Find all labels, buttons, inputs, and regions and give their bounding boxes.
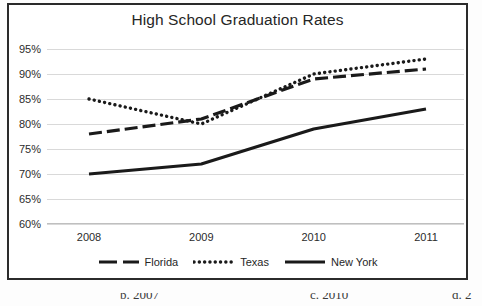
legend-item-texas[interactable]: Texas xyxy=(193,256,269,268)
legend-label: New York xyxy=(331,256,377,268)
y-axis-tick-label: 65% xyxy=(19,193,41,205)
answer-choice-d: d. 2 xyxy=(452,293,472,303)
plot-area: 60%65%70%75%80%85%90%95% 200820092010201… xyxy=(47,49,464,224)
y-axis-tick-label: 70% xyxy=(19,168,41,180)
y-axis-tick-label: 60% xyxy=(19,218,41,230)
y-axis-tick-label: 80% xyxy=(19,118,41,130)
chart-title: High School Graduation Rates xyxy=(9,11,466,29)
chart-container: High School Graduation Rates 60%65%70%75… xyxy=(7,3,468,280)
legend-item-new-york[interactable]: New York xyxy=(284,256,377,268)
legend-label: Texas xyxy=(240,256,269,268)
screenshot-root: High School Graduation Rates 60%65%70%75… xyxy=(0,0,482,306)
legend-swatch-dashed xyxy=(98,257,140,267)
y-axis-tick-label: 95% xyxy=(19,43,41,55)
gridline xyxy=(47,224,464,225)
x-axis-tick-label: 2009 xyxy=(189,231,213,243)
y-axis-tick-label: 75% xyxy=(19,143,41,155)
legend-swatch-solid xyxy=(284,257,326,267)
legend-label: Florida xyxy=(145,256,179,268)
x-axis-tick-label: 2011 xyxy=(414,231,438,243)
legend-item-florida[interactable]: Florida xyxy=(98,256,179,268)
answer-choice-c: c. 2010 xyxy=(310,293,348,303)
y-axis-tick-label: 85% xyxy=(19,93,41,105)
chart-legend: FloridaTexasNew York xyxy=(9,256,466,268)
legend-swatch-dotted xyxy=(193,257,235,267)
series-line-florida xyxy=(89,69,426,134)
cutoff-answer-choices: b. 2007 c. 2010 d. 2 xyxy=(0,293,482,306)
y-axis-tick-label: 90% xyxy=(19,68,41,80)
x-axis-tick-label: 2008 xyxy=(77,231,101,243)
series-lines-group xyxy=(47,49,464,224)
series-line-texas xyxy=(89,59,426,124)
series-line-new-york xyxy=(89,109,426,174)
answer-choice-b: b. 2007 xyxy=(120,293,159,303)
x-axis-tick-label: 2010 xyxy=(301,231,325,243)
